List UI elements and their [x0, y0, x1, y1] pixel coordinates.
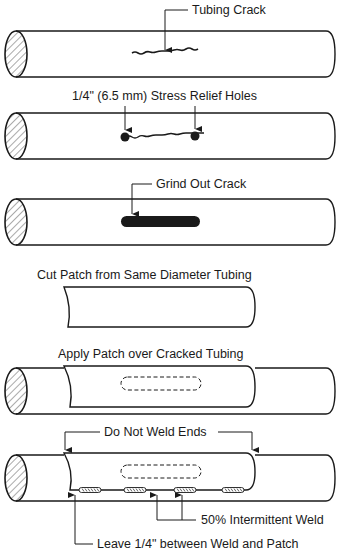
relief-hole-left-icon — [121, 133, 130, 142]
leader-arrow-icon — [75, 495, 93, 544]
label-grind-out-crack: Grind Out Crack — [156, 177, 247, 191]
leader-arrow-icon — [165, 10, 188, 50]
weld-bead-icon — [222, 488, 244, 493]
step-5-tube: Apply Patch over Cracked Tubing — [5, 347, 335, 414]
weld-bead-icon — [174, 488, 196, 493]
ground-slot-icon — [121, 216, 200, 227]
patch-welded — [64, 453, 255, 490]
hidden-slot-outline — [121, 377, 201, 390]
tube-end-hatched-icon — [5, 199, 27, 245]
step-6-tube: Do Not Weld Ends 50% Intermittent Weld L… — [5, 425, 335, 551]
step-3-tube: Grind Out Crack — [5, 177, 335, 245]
patch-applied — [64, 366, 255, 407]
label-leave-gap: Leave 1/4" between Weld and Patch — [97, 537, 299, 551]
weld-bead-icon — [79, 488, 101, 493]
tube-end-hatched-icon — [5, 368, 27, 414]
step-4-patch: Cut Patch from Same Diameter Tubing — [37, 268, 255, 327]
label-stress-relief-holes: 1/4" (6.5 mm) Stress Relief Holes — [72, 89, 257, 103]
patch-piece — [64, 287, 255, 327]
tube-end-hatched-icon — [5, 31, 27, 77]
tubing-repair-diagram: Tubing Crack 1/4" (6.5 mm) Stress Relief… — [0, 0, 339, 556]
label-tubing-crack: Tubing Crack — [192, 3, 267, 17]
tube-end-hatched-icon — [5, 455, 27, 501]
step-2-tube: 1/4" (6.5 mm) Stress Relief Holes — [5, 89, 335, 159]
label-intermittent-weld: 50% Intermittent Weld — [201, 513, 324, 527]
leader-arrow-icon — [157, 495, 196, 520]
tube-end-hatched-icon — [5, 113, 27, 159]
hidden-slot-outline — [121, 465, 201, 478]
weld-bead-icon — [124, 488, 146, 493]
relief-hole-right-icon — [191, 132, 200, 141]
step-1-tube: Tubing Crack — [5, 3, 335, 77]
label-cut-patch: Cut Patch from Same Diameter Tubing — [37, 268, 252, 282]
label-do-not-weld-ends: Do Not Weld Ends — [104, 425, 207, 439]
leader-arrow-icon — [218, 432, 252, 450]
label-apply-patch: Apply Patch over Cracked Tubing — [58, 347, 244, 361]
leader-arrow-icon — [65, 432, 100, 450]
